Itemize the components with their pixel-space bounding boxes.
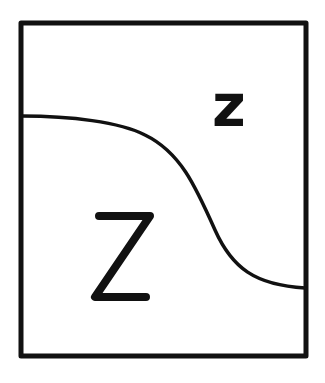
region-label-small-z: z [212, 72, 246, 140]
upper-right-region: z [212, 72, 246, 140]
lower-left-region: Z [81, 190, 163, 329]
region-diagram: z Z [0, 0, 325, 383]
region-label-large-Z: Z [81, 190, 163, 329]
